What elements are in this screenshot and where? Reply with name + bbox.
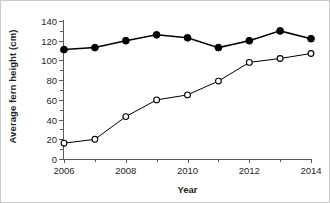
y-tick-mark <box>59 100 63 101</box>
y-tick-mark <box>59 21 63 22</box>
data-point-closed-circles-2011 <box>215 44 222 51</box>
x-tick-mark <box>311 159 312 163</box>
y-tick-label: 60 <box>21 94 57 105</box>
x-tick-minor <box>95 159 96 162</box>
x-tick-minor <box>157 159 158 162</box>
data-point-closed-circles-2013 <box>277 28 284 35</box>
y-tick-mark <box>59 80 63 81</box>
data-point-open-circles-2010 <box>185 92 191 98</box>
data-point-closed-circles-2014 <box>308 35 315 42</box>
y-tick-mark <box>59 120 63 121</box>
y-tick-label: 40 <box>21 114 57 125</box>
plot-area <box>64 21 311 159</box>
y-tick-label: 140 <box>21 16 57 27</box>
data-point-closed-circles-2007 <box>92 44 99 51</box>
data-point-open-circles-2009 <box>154 97 160 103</box>
y-tick-minor <box>60 31 63 32</box>
y-axis-title-text: Average fern height (cm) <box>8 29 19 143</box>
y-tick-mark <box>59 139 63 140</box>
data-point-open-circles-2011 <box>216 78 222 84</box>
x-tick-label: 2010 <box>168 165 208 176</box>
y-tick-minor <box>60 129 63 130</box>
data-point-closed-circles-2010 <box>184 34 191 41</box>
x-tick-label: 2014 <box>291 165 330 176</box>
y-tick-label: 20 <box>21 134 57 145</box>
data-point-closed-circles-2008 <box>122 37 129 44</box>
y-tick-minor <box>60 70 63 71</box>
x-tick-mark <box>64 159 65 163</box>
x-tick-label: 2008 <box>106 165 146 176</box>
x-tick-mark <box>249 159 250 163</box>
y-tick-label: 100 <box>21 55 57 66</box>
x-tick-label: 2012 <box>229 165 269 176</box>
x-tick-mark <box>188 159 189 163</box>
x-tick-minor <box>218 159 219 162</box>
y-tick-mark <box>59 159 63 160</box>
y-tick-mark <box>59 60 63 61</box>
data-point-open-circles-2006 <box>61 140 67 146</box>
data-point-open-circles-2008 <box>123 114 129 120</box>
y-tick-label: 0 <box>21 154 57 165</box>
x-tick-mark <box>126 159 127 163</box>
y-tick-minor <box>60 149 63 150</box>
series-layer <box>64 21 311 159</box>
data-point-open-circles-2013 <box>277 56 283 62</box>
y-tick-minor <box>60 110 63 111</box>
x-tick-label: 2006 <box>44 165 84 176</box>
chart-figure: Average fern height (cm) 020406080100120… <box>0 0 330 203</box>
data-point-closed-circles-2012 <box>246 37 253 44</box>
data-point-open-circles-2007 <box>92 136 98 142</box>
x-axis-title: Year <box>64 184 311 195</box>
data-point-closed-circles-2009 <box>153 31 160 38</box>
x-tick-minor <box>280 159 281 162</box>
data-point-closed-circles-2006 <box>61 46 68 53</box>
data-point-open-circles-2014 <box>308 51 314 57</box>
y-tick-mark <box>59 41 63 42</box>
y-tick-label: 120 <box>21 35 57 46</box>
data-point-open-circles-2012 <box>246 60 252 66</box>
y-tick-label: 80 <box>21 75 57 86</box>
y-tick-minor <box>60 90 63 91</box>
